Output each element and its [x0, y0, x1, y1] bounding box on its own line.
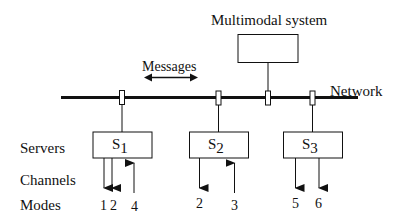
mode-label: 3: [231, 199, 238, 213]
mode-label: 2: [196, 197, 203, 211]
server-s3-label: S3: [302, 137, 318, 152]
mode-label: 1: [100, 199, 107, 213]
channels-row-label: Channels: [20, 173, 76, 188]
bus-connector-s3: [310, 91, 315, 105]
servers-row-label: Servers: [20, 141, 65, 156]
network-label: Network: [330, 84, 383, 99]
server-s2-label: S2: [208, 137, 224, 152]
mode-label: 6: [315, 197, 322, 211]
messages-arrow: [144, 74, 198, 82]
bus-connector-s2: [216, 91, 221, 105]
messages-label: Messages: [142, 60, 196, 74]
mode-label: 5: [292, 197, 299, 211]
multimodal-system-label: Multimodal system: [211, 13, 327, 28]
server-s1-label: S1: [112, 137, 128, 152]
multimodal-system-box: [238, 35, 298, 63]
bus-connector-multimodal: [266, 91, 271, 105]
diagram-canvas: [0, 0, 407, 223]
mode-label: 2: [110, 199, 117, 213]
bus-connector-s1: [120, 91, 125, 105]
modes-row-label: Modes: [20, 198, 61, 213]
mode-label: 4: [131, 200, 138, 214]
